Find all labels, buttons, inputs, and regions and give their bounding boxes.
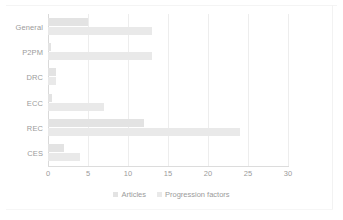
bar-ces-articles <box>48 144 64 152</box>
category-label-ecc: ECC <box>27 98 43 107</box>
x-tick-label-15: 15 <box>164 169 172 178</box>
category-label-p2pm: P2PM <box>22 47 43 56</box>
bar-group-general: General <box>48 14 288 39</box>
bar-ecc-articles <box>48 94 52 102</box>
bar-group-p2pm: P2PM <box>48 39 288 64</box>
category-label-rec: REC <box>27 123 43 132</box>
x-tick-label-25: 25 <box>244 169 252 178</box>
plot-area: GeneralP2PMDRCECCRECCES <box>48 14 288 166</box>
x-axis-line <box>48 166 289 167</box>
bar-ecc-progression-factors <box>48 103 104 111</box>
x-tick-label-5: 5 <box>86 169 90 178</box>
legend-swatch-icon <box>113 192 118 197</box>
bar-group-drc: DRC <box>48 65 288 90</box>
x-axis-tick-labels: 051015202530 <box>48 169 288 183</box>
bar-rec-articles <box>48 119 144 127</box>
bar-p2pm-articles <box>48 43 51 51</box>
category-label-drc: DRC <box>26 73 43 82</box>
x-tick-label-10: 10 <box>124 169 132 178</box>
bar-drc-progression-factors <box>48 77 56 85</box>
category-label-ces: CES <box>27 149 43 158</box>
legend-item-articles[interactable]: Articles <box>113 190 146 199</box>
bar-general-articles <box>48 18 88 26</box>
category-label-general: General <box>16 22 43 31</box>
bar-p2pm-progression-factors <box>48 52 152 60</box>
chart-legend: ArticlesProgression factors <box>0 190 343 199</box>
bar-group-ecc: ECC <box>48 90 288 115</box>
x-tick-label-20: 20 <box>204 169 212 178</box>
chart-frame-right-border <box>332 5 333 210</box>
legend-label: Articles <box>121 190 146 199</box>
bar-group-ces: CES <box>48 141 288 166</box>
bar-ces-progression-factors <box>48 153 80 161</box>
legend-item-progression-factors[interactable]: Progression factors <box>157 190 230 199</box>
chart-frame-top-border <box>6 5 337 6</box>
gridline-x-30 <box>288 14 289 166</box>
legend-label: Progression factors <box>165 190 230 199</box>
x-tick-label-0: 0 <box>46 169 50 178</box>
legend-swatch-icon <box>157 192 162 197</box>
bar-group-rec: REC <box>48 115 288 140</box>
x-tick-label-30: 30 <box>284 169 292 178</box>
bar-chart: GeneralP2PMDRCECCRECCES 051015202530 Art… <box>0 0 343 220</box>
bar-rec-progression-factors <box>48 128 240 136</box>
bar-general-progression-factors <box>48 27 152 35</box>
bar-drc-articles <box>48 68 56 76</box>
chart-frame-bottom-border <box>6 209 333 210</box>
